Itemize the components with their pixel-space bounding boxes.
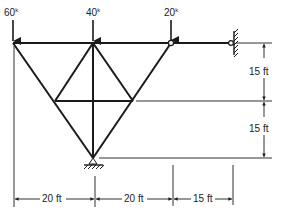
truss-members bbox=[13, 43, 232, 158]
dim-vertical-upper: 15 ft bbox=[249, 66, 269, 77]
load-label-60k: 60k bbox=[4, 7, 19, 18]
truss-diagram: 60k 40k 20k 15 ft 15 ft 20 ft 20 ft 15 f… bbox=[0, 0, 283, 218]
hinge-node-wall bbox=[229, 41, 234, 46]
ground-pin-support-icon bbox=[84, 158, 104, 169]
member-upper-left-diagonal bbox=[55, 43, 93, 101]
dim-vertical-lower: 15 ft bbox=[249, 123, 269, 134]
member-upper-right-diagonal bbox=[93, 43, 133, 101]
dim-horizontal-1: 20 ft bbox=[42, 193, 62, 204]
hinge-node-c bbox=[168, 40, 173, 45]
dim-horizontal-2: 20 ft bbox=[124, 193, 144, 204]
load-label-20k: 20k bbox=[164, 7, 179, 18]
load-arrows bbox=[13, 20, 171, 41]
extension-lines bbox=[14, 43, 272, 207]
load-label-40k: 40k bbox=[86, 7, 101, 18]
dim-horizontal-3: 15 ft bbox=[193, 193, 213, 204]
